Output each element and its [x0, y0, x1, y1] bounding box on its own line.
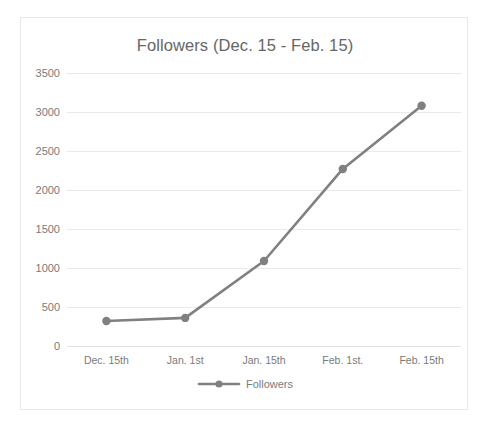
x-axis-tick-label: Dec. 15th [84, 354, 129, 366]
y-axis-tick-label: 1000 [36, 262, 60, 274]
series-line [106, 106, 421, 321]
data-point-marker [260, 257, 268, 265]
data-point-marker [417, 102, 425, 110]
x-axis-tick-label: Feb. 1st. [322, 354, 363, 366]
chart-container: Followers (Dec. 15 - Feb. 15) 0500100015… [20, 17, 468, 410]
y-axis-tick-label: 3000 [36, 106, 60, 118]
y-axis-tick-label: 0 [54, 340, 60, 352]
x-axis-tick-label: Jan. 1st [167, 354, 204, 366]
x-axis-tick-label: Feb. 15th [399, 354, 443, 366]
series-markers [102, 102, 426, 326]
chart-title: Followers (Dec. 15 - Feb. 15) [21, 36, 469, 55]
x-axis-tick-label: Jan. 15th [242, 354, 285, 366]
series-followers [67, 73, 461, 346]
chart-legend: Followers [21, 378, 469, 390]
legend-label-followers: Followers [246, 378, 293, 390]
y-axis-tick-label: 2500 [36, 145, 60, 157]
data-point-marker [339, 165, 347, 173]
y-axis-tick-label: 1500 [36, 223, 60, 235]
plot-area: 0500100015002000250030003500 Dec. 15thJa… [67, 73, 461, 346]
y-axis-tick-label: 3500 [36, 67, 60, 79]
y-axis-tick-label: 500 [42, 301, 60, 313]
data-point-marker [102, 317, 110, 325]
legend-marker-icon [197, 378, 241, 390]
data-point-marker [181, 314, 189, 322]
y-axis-tick-label: 2000 [36, 184, 60, 196]
gridline [67, 346, 461, 347]
